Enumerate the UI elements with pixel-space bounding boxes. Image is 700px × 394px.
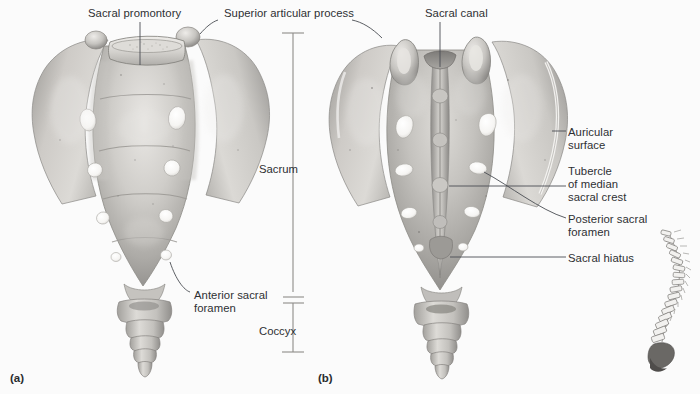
label-sacral-hiatus: Sacral hiatus — [568, 252, 634, 265]
label-posterior-sacral-foramen: Posterior sacral foramen — [568, 213, 647, 239]
panel-id-a: (a) — [10, 372, 24, 384]
panel-id-b: (b) — [318, 372, 333, 384]
label-sacral-promontory: Sacral promontory — [88, 7, 181, 20]
label-auricular-surface: Auricular surface — [568, 126, 613, 152]
superior-articular-process-left — [85, 31, 107, 49]
tubercle-of-median-sacral-crest — [432, 178, 448, 193]
label-sacral-canal: Sacral canal — [425, 7, 488, 20]
label-anterior-sacral-foramen: Anterior sacral foramen — [194, 289, 268, 315]
label-tubercle-of-median-sacral-crest: Tubercle of median sacral crest — [568, 165, 626, 205]
bracket-label-coccyx: Coccyx — [259, 325, 296, 337]
label-superior-articular-process: Superior articular process — [224, 7, 354, 20]
bracket-label-sacrum: Sacrum — [259, 163, 298, 175]
sacral-hiatus — [429, 236, 452, 259]
